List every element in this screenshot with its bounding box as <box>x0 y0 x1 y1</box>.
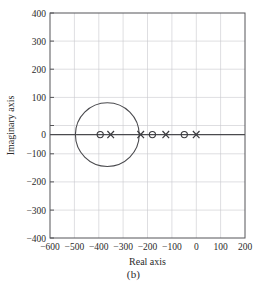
x-tick-labels: −600 −500 −400 −300 −200 −100 0 100 200 <box>40 242 252 252</box>
y-tick-label: 300 <box>32 37 47 47</box>
figure-caption: (b) <box>0 268 267 280</box>
y-tick-label: −100 <box>26 149 46 159</box>
x-tick-label: −100 <box>162 242 182 252</box>
y-tick-label: −300 <box>26 206 46 216</box>
x-tick-label: 0 <box>194 242 199 252</box>
y-tick-label: 100 <box>32 93 47 103</box>
x-tick-label: −500 <box>65 242 85 252</box>
y-tick-label: −200 <box>26 177 46 187</box>
x-tick-label: 200 <box>238 242 253 252</box>
y-tick-label: 200 <box>32 65 47 75</box>
y-tick-label: −400 <box>26 234 46 244</box>
x-tick-label: −300 <box>113 242 133 252</box>
x-axis-title: Real axis <box>129 256 166 267</box>
y-tick-label: 400 <box>32 9 47 19</box>
root-locus-plot: −600 −500 −400 −300 −200 −100 0 100 200 … <box>0 0 267 291</box>
x-tick-label: −600 <box>40 242 60 252</box>
y-tick-label: 0 <box>41 130 46 140</box>
x-tick-label: −200 <box>138 242 158 252</box>
y-axis-title: Imaginary axis <box>5 96 16 156</box>
y-tick-labels: 400 300 200 100 0 −100 −200 −300 −400 <box>26 9 46 244</box>
root-locus-figure: −600 −500 −400 −300 −200 −100 0 100 200 … <box>0 0 267 291</box>
x-tick-label: −400 <box>89 242 109 252</box>
x-tick-label: 100 <box>213 242 228 252</box>
